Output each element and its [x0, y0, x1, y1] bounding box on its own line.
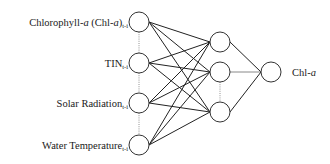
input-node-solar-radiation — [129, 93, 149, 113]
hidden-output-edges — [230, 42, 261, 112]
input-label-chlorophyll: Chlorophyll-a (Chl-a)t-i — [29, 17, 128, 29]
input-node-tin — [129, 53, 149, 73]
output-node — [261, 62, 281, 82]
input-node-water-temperature — [129, 135, 149, 155]
hidden-node-1 — [210, 32, 230, 52]
input-label-solar-radiation: Solar Radiationt-i — [57, 98, 129, 110]
hidden-node-2 — [210, 62, 230, 82]
neural-network-diagram: Chlorophyll-a (Chl-a)t-i TINt-i Solar Ra… — [0, 0, 330, 164]
input-label-tin: TINt-i — [105, 58, 128, 70]
input-node-chlorophyll — [129, 12, 149, 32]
output-label: Chl-a — [292, 67, 316, 78]
input-label-water-temperature: Water Temperaturet-i — [42, 140, 128, 152]
input-hidden-edges — [149, 22, 210, 145]
hidden-node-3 — [210, 102, 230, 122]
